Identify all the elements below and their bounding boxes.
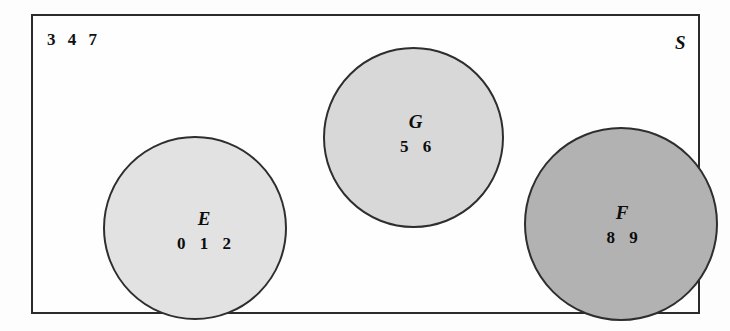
- set-circle-e: E 0 1 2: [103, 136, 287, 320]
- universal-set-rectangle: 3 4 7 S E 0 1 2 G 5 6 F 8 9: [31, 14, 700, 314]
- set-f-members: 8 9: [601, 229, 642, 246]
- universal-set-label: S: [675, 32, 686, 54]
- set-e-labels: E 0 1 2: [172, 209, 236, 252]
- outside-elements-label: 3 4 7: [47, 30, 101, 50]
- set-g-labels: G 5 6: [395, 112, 436, 155]
- set-e-name: E: [198, 209, 211, 228]
- set-g-name: G: [409, 112, 423, 131]
- set-f-labels: F 8 9: [601, 203, 642, 246]
- set-e-members: 0 1 2: [172, 235, 236, 252]
- set-circle-f: F 8 9: [524, 127, 718, 321]
- set-f-name: F: [616, 203, 629, 222]
- set-g-members: 5 6: [395, 138, 436, 155]
- set-circle-g: G 5 6: [323, 47, 504, 228]
- diagram-canvas: 3 4 7 S E 0 1 2 G 5 6 F 8 9: [0, 0, 730, 331]
